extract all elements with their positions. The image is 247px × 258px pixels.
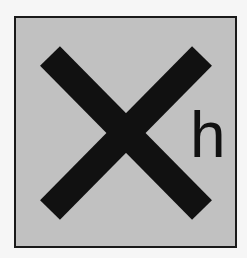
hazard-code-letter: h <box>190 103 226 167</box>
hazard-symbol-harmful: h <box>14 16 237 248</box>
